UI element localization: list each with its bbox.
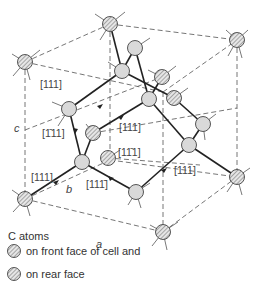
label-dir-111-top: [111] [40,78,62,90]
legend-rear-text: on rear face [26,268,85,280]
hatched-atom-icon [6,243,22,259]
hatched-atom-icon-rear [6,266,22,282]
legend-title: C atoms [8,230,49,242]
label-dir-111-right: [111] [174,164,196,176]
label-dir-1bar11: [11̄1] [118,146,141,158]
label-dir-111-left: [111] [31,171,53,183]
label-dir-11bar1: [111̄] [86,178,108,190]
legend-item-front: on front face of cell and [6,243,140,259]
axis-label-b: b [66,183,72,195]
label-dir-111-mid: [111] [119,121,141,133]
legend-item-rear: on rear face [6,266,85,282]
label-dir-bar111: [1̄11] [42,127,65,139]
axis-label-c: c [14,122,20,134]
legend-front-text: on front face of cell and [26,245,140,257]
